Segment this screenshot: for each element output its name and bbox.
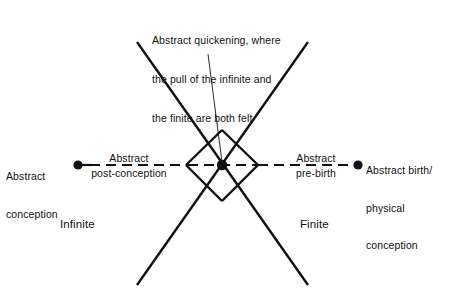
label-abstract-post-conception-top: Abstract [89, 152, 169, 165]
caption-abstract-quickening: Abstract quickening, where the pull of t… [152, 8, 281, 151]
caption-line-1: Abstract quickening, where [152, 34, 281, 47]
caption-line-2: the pull of the infinite and [152, 73, 281, 86]
diagram-canvas: Abstract quickening, where the pull of t… [0, 0, 459, 302]
caption-line-3: the finite are both felt [152, 112, 281, 125]
label-infinite: Infinite [60, 218, 95, 231]
label-abstract-pre-birth-bottom: pre-birth [283, 167, 349, 180]
label-abstract-birth-line-2: physical [366, 202, 458, 215]
label-finite: Finite [300, 218, 329, 231]
label-abstract-birth-physical-conception: Abstract birth/ physical conception [366, 139, 458, 277]
abstract-conception-dot [73, 160, 82, 169]
abstract-quickening-dot [217, 160, 227, 170]
label-abstract-pre-birth-top: Abstract [283, 152, 349, 165]
label-abstract-conception-line-1: Abstract [6, 170, 72, 183]
label-abstract-post-conception-bottom: post-conception [85, 167, 173, 180]
label-abstract-birth-line-3: conception [366, 239, 458, 252]
label-abstract-birth-line-1: Abstract birth/ [366, 164, 458, 177]
abstract-birth-dot [353, 160, 362, 169]
